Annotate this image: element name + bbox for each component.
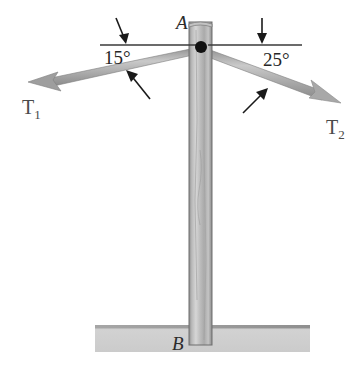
- angle-label-left: 15°: [104, 48, 131, 67]
- tension-label-t1: T1: [22, 97, 41, 121]
- joint-dot-icon: [195, 41, 207, 53]
- up-left-pointer-icon: [126, 70, 150, 99]
- diagram-canvas: [0, 0, 362, 367]
- tension-symbol-t2: T: [326, 116, 338, 138]
- pole: [189, 22, 212, 345]
- down-left-pointer-icon: [116, 18, 129, 44]
- angle-label-right: 25°: [263, 50, 290, 69]
- down-pointer-icon: [257, 18, 267, 44]
- tension-subscript-t1: 1: [34, 107, 41, 122]
- point-label-a: A: [176, 13, 188, 32]
- tension-symbol-t1: T: [22, 96, 34, 118]
- point-label-b: B: [172, 334, 184, 353]
- up-right-pointer-icon: [243, 88, 268, 113]
- tension-label-t2: T2: [326, 117, 345, 141]
- physics-diagram: A B 15° 25° T1 T2: [0, 0, 362, 367]
- tension-subscript-t2: 2: [338, 127, 345, 142]
